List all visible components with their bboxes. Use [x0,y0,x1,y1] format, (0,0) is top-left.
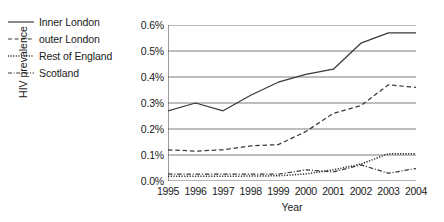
plot-area [168,25,416,181]
x-tick-label: 1999 [263,185,293,197]
legend-label: Scotland [39,68,79,79]
x-axis-label: Year [168,201,416,213]
y-tick-label: 0.4% [130,71,164,83]
x-tick-label: 2001 [318,185,348,197]
legend-label: Rest of England [39,51,112,62]
x-tick-label: 1998 [236,185,266,197]
series-line-rest-of-england [168,154,416,177]
y-tick-label: 0.5% [130,45,164,57]
plot-svg [168,25,416,181]
x-tick-label: 1995 [153,185,183,197]
legend-label: Inner London [39,17,100,28]
y-tick-label: 0.2% [130,123,164,135]
y-tick-label: 0.1% [130,149,164,161]
y-tick-label: 0.3% [130,97,164,109]
gridlines [168,25,416,181]
x-tick-label: 2000 [291,185,321,197]
x-tick-label: 1997 [208,185,238,197]
hiv-prevalence-line-chart: Inner London outer London Rest of Englan… [0,0,444,222]
x-tick-label: 2004 [401,185,431,197]
x-tick-label: 1996 [181,185,211,197]
series-line-outer-london [168,85,416,151]
legend-label: outer London [39,34,100,45]
x-tick-label: 2002 [346,185,376,197]
x-tick-label: 2003 [373,185,403,197]
series-line-inner-london [168,33,416,111]
series-line-scotland [168,165,416,174]
y-tick-label: 0.6% [130,19,164,31]
y-axis-label: HIV prevalence [17,0,29,132]
